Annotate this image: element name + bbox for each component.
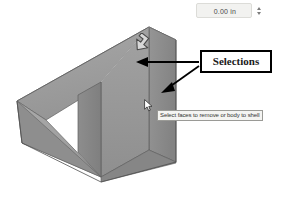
thickness-control-group[interactable]: 0.00 in [196,3,276,20]
rotate-arrow-cursor [131,33,155,55]
thickness-value-text: 0.00 in [197,4,253,19]
thickness-input[interactable]: 0.00 in [196,3,252,18]
spinner-up-icon[interactable] [257,7,261,10]
shell-tooltip-text: Select faces to remove or body to shell [160,111,260,120]
cad-viewport[interactable] [0,0,290,209]
thickness-spinner[interactable] [256,7,264,15]
mouse-pointer-cursor [144,99,153,112]
selections-callout: Selections [200,50,272,73]
spinner-down-icon[interactable] [257,12,261,15]
selections-callout-label: Selections [202,52,270,71]
shell-tooltip: Select faces to remove or body to shell [157,110,263,121]
screenshot-root: 0.00 in Selections Select faces to remov… [0,0,290,209]
